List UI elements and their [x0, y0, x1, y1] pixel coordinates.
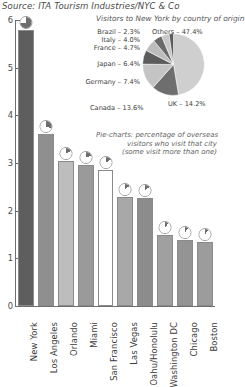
- pie-caption-line-3: (some visit more than one): [96, 148, 217, 157]
- pie-slice-label: France – 4.7%: [92, 44, 140, 52]
- bar-pie-glyph: [39, 120, 52, 133]
- bar[interactable]: [38, 134, 54, 306]
- bar-group[interactable]: [38, 20, 54, 306]
- bar[interactable]: [78, 165, 94, 306]
- bar-pie-glyph: [179, 226, 192, 239]
- bar-group[interactable]: [18, 20, 34, 306]
- y-tick-label: 6: [2, 16, 13, 24]
- pie-slice-label: Japan – 6.4%: [92, 60, 140, 68]
- y-tick-label: 2: [2, 207, 13, 215]
- x-axis-label: New York: [29, 322, 39, 361]
- x-axis-label: Washington DC: [169, 322, 179, 387]
- y-tick-label: 5: [2, 64, 13, 72]
- bar-pie-slice: [40, 121, 51, 132]
- bar-pie-slice: [80, 152, 91, 163]
- bar[interactable]: [18, 30, 34, 306]
- bar[interactable]: [58, 161, 74, 306]
- pie-slice-label: Others – 47.4%: [152, 28, 203, 36]
- bar[interactable]: [137, 198, 153, 306]
- bar[interactable]: [177, 240, 193, 306]
- source-note: Source: ITA Tourism Industries/NYC & Co: [2, 1, 180, 11]
- bar-pie-glyph: [119, 183, 132, 196]
- x-axis-line: [15, 306, 215, 307]
- pie-slice-label: Germany – 7.4%: [82, 78, 140, 86]
- bar-pie-slice: [20, 17, 31, 28]
- bar-pie-glyph: [139, 184, 152, 197]
- bar[interactable]: [197, 242, 213, 306]
- pie-slice-label: UK – 14.2%: [168, 100, 206, 108]
- y-tick-label: 1: [2, 254, 13, 262]
- pie-svg: [142, 33, 205, 96]
- x-axis-label: Chicago: [189, 322, 199, 356]
- pie-slice-label: Brazil – 2.3%: [94, 28, 140, 36]
- bar-pie-slice: [60, 148, 71, 159]
- bar-pie-glyph: [59, 147, 72, 160]
- pie-inset-title: Visitors to New York by country of origi…: [96, 14, 217, 23]
- bar-pie-glyph: [79, 151, 92, 164]
- bar-pie-slice: [180, 227, 191, 238]
- bar-pie-slice: [160, 222, 171, 233]
- x-axis-label: Orlando: [69, 322, 79, 356]
- y-tick-label: 3: [2, 159, 13, 167]
- x-axis-label: San Francisco: [109, 322, 119, 381]
- bar-pie-glyph: [99, 156, 112, 169]
- pie-caption: Pie-charts: percentage of overseas visit…: [96, 131, 217, 157]
- y-tick-label: 4: [2, 111, 13, 119]
- bar[interactable]: [117, 197, 133, 306]
- bar[interactable]: [98, 170, 114, 306]
- x-axis-label: Las Vegas: [129, 322, 139, 365]
- bar-pie-glyph: [159, 221, 172, 234]
- x-axis-label: Boston: [209, 322, 219, 352]
- bar-group[interactable]: [58, 20, 74, 306]
- pie-inset-chart: [142, 33, 205, 96]
- x-axis-labels: New YorkLos AngelesOrlandoMiamiSan Franc…: [16, 322, 215, 378]
- bar[interactable]: [157, 235, 173, 307]
- bar-pie-glyph: [19, 16, 32, 29]
- x-axis-label: Miami: [89, 322, 99, 348]
- pie-slice-label: Canada – 13.6%: [90, 104, 140, 112]
- pie-caption-line-2: visitors who visit that city: [96, 140, 217, 149]
- bar-pie-slice: [100, 157, 111, 168]
- y-tick-label: 0: [2, 302, 13, 310]
- bar-pie-glyph: [199, 228, 212, 241]
- x-axis-label: Los Angeles: [49, 322, 59, 373]
- pie-slice[interactable]: [174, 34, 205, 95]
- pie-slice-label: Italy – 4.0%: [98, 36, 140, 44]
- x-axis-label: Oahu/Honolulu: [149, 322, 159, 386]
- pie-caption-line-1: Pie-charts: percentage of overseas: [96, 131, 217, 140]
- bar-pie-slice: [140, 185, 151, 196]
- bar-pie-slice: [120, 184, 131, 195]
- bar-pie-slice: [200, 229, 211, 240]
- y-tick: [15, 306, 19, 307]
